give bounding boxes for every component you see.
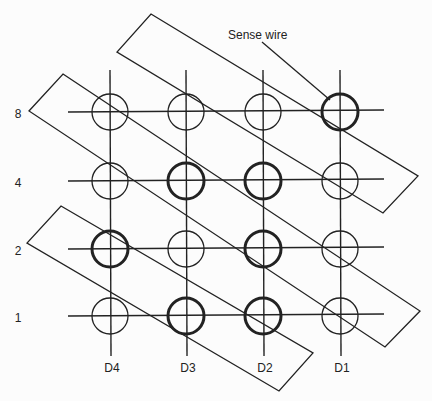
- column-label-d4: D4: [104, 362, 119, 374]
- column-wire-d1: [340, 70, 341, 356]
- row-label-1: 1: [15, 312, 22, 324]
- sense-wire-label: Sense wire: [228, 29, 287, 41]
- row-wire-2: [68, 247, 384, 249]
- row-label-4: 4: [15, 177, 22, 189]
- row-wire-1: [68, 314, 384, 316]
- column-label-d1: D1: [334, 362, 349, 374]
- row-wire-4: [68, 179, 384, 181]
- core-matrix-diagram: Sense wire 8 4 2 1 D4 D3 D2 D1: [0, 0, 432, 401]
- column-wire-d4: [110, 70, 111, 356]
- row-label-8: 8: [15, 108, 22, 120]
- core-1-d1-clear: [322, 298, 358, 334]
- sense-wire-leader: [262, 42, 330, 100]
- sense-wire-loop-0: [117, 14, 418, 213]
- sense-wire-loop-1: [29, 74, 420, 347]
- column-wire-d2: [263, 70, 264, 356]
- column-label-d2: D2: [257, 362, 272, 374]
- column-label-d3: D3: [180, 362, 195, 374]
- row-label-2: 2: [15, 245, 22, 257]
- row-wire-8: [68, 110, 384, 112]
- column-wire-d3: [186, 70, 187, 356]
- diagram-canvas: [0, 0, 432, 401]
